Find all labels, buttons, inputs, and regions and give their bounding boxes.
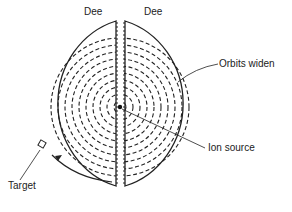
- right-dee-label: Dee: [144, 6, 162, 17]
- ion-source-label: Ion source: [208, 142, 255, 153]
- exit-beam: [52, 155, 112, 182]
- orbits-widen-label: Orbits widen: [219, 58, 275, 69]
- ion-source-leader: [122, 109, 205, 148]
- target-label: Target: [8, 180, 36, 191]
- ion-source-dot: [118, 105, 122, 109]
- target-box: [38, 140, 46, 148]
- exit-arrowhead: [55, 155, 62, 161]
- orbits-leader: [178, 64, 218, 82]
- target-leader: [20, 150, 40, 180]
- left-dee: [58, 21, 116, 186]
- left-dee-label: Dee: [84, 6, 102, 17]
- cyclotron-diagram: [0, 0, 292, 212]
